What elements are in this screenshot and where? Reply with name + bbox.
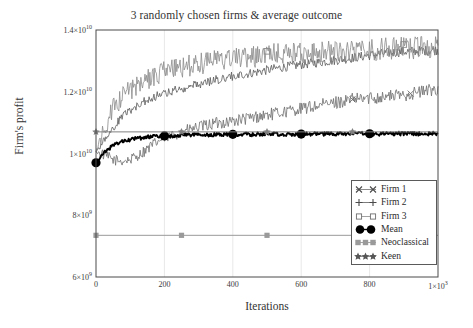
marker-filled-circle — [297, 129, 306, 138]
legend-label: Firm 1 — [381, 184, 407, 195]
legend-label: Keen — [381, 251, 401, 262]
x-cross-marker-icon — [354, 184, 378, 195]
square-open-marker-icon — [354, 211, 378, 222]
marker-filled-circle — [160, 131, 169, 140]
legend-entry[interactable]: Firm 3 — [354, 210, 434, 223]
legend-label: Neoclassical — [381, 237, 429, 248]
legend-entry[interactable]: Firm 1 — [354, 183, 434, 196]
marker-filled-circle — [365, 129, 374, 138]
legend-label: Firm 2 — [381, 197, 407, 208]
plus-marker-icon — [354, 197, 378, 208]
series-line-firm-1 — [96, 84, 438, 165]
chart-legend: Firm 1Firm 2Firm 3MeanNeoclassicalKeen — [351, 180, 437, 265]
filled-square-marker-icon — [354, 237, 378, 248]
filled-circle-marker-icon — [354, 224, 378, 235]
legend-entry[interactable]: Neoclassical — [354, 236, 434, 249]
legend-entry[interactable]: Firm 2 — [354, 196, 434, 209]
legend-entry[interactable]: Mean — [354, 223, 434, 236]
legend-label: Firm 3 — [381, 211, 407, 222]
marker-square-filled — [179, 233, 184, 238]
chart-figure: 3 randomly chosen firms & average outcom… — [0, 0, 473, 328]
legend-label: Mean — [381, 224, 403, 235]
marker-filled-circle — [228, 130, 237, 139]
star-marker-icon — [354, 251, 378, 262]
marker-square-filled — [264, 233, 269, 238]
legend-entry[interactable]: Keen — [354, 249, 434, 262]
plot-area — [0, 0, 473, 328]
